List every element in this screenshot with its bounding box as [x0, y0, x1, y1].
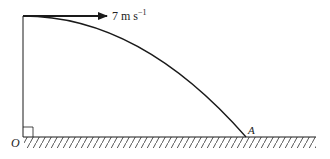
trajectory-curve	[23, 16, 246, 137]
ground-hatching	[24, 137, 316, 148]
right-angle-marker	[23, 127, 33, 137]
origin-label: O	[11, 136, 20, 150]
projectile-diagram: 7 m s−1 O A	[0, 0, 330, 159]
velocity-label: 7 m s−1	[112, 8, 147, 23]
landing-point-label: A	[247, 124, 255, 136]
